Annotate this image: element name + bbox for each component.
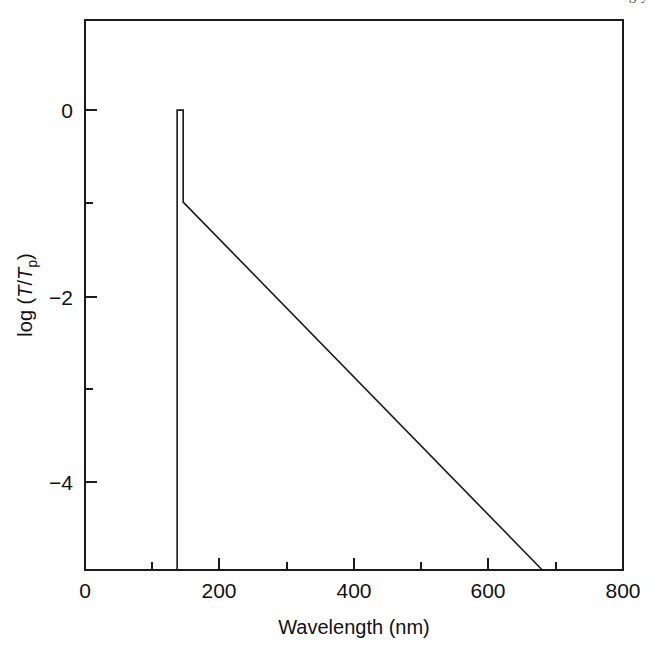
y-tick-label-minus4: −4: [49, 471, 73, 494]
x-tick-label-600: 600: [470, 579, 505, 602]
transmission-curve: [177, 110, 542, 570]
x-axis-tick-labels: 0 200 400 600 800: [79, 579, 640, 602]
x-tick-label-0: 0: [79, 579, 91, 602]
y-axis-tick-labels: 0 −2 −4: [49, 99, 73, 494]
y-axis-title: log (T/Tp): [14, 253, 40, 336]
y-axis-title-prefix: log (: [14, 297, 36, 336]
y-axis-minor-ticks: [85, 203, 93, 389]
x-tick-label-400: 400: [336, 579, 371, 602]
y-tick-label-0: 0: [61, 99, 73, 122]
x-tick-label-800: 800: [605, 579, 640, 602]
x-axis-major-ticks: [85, 558, 623, 570]
y-axis-major-ticks: [85, 110, 97, 482]
y-tick-label-minus2: −2: [49, 286, 73, 309]
y-axis-title-suffix: ): [14, 253, 36, 260]
figure-container: g y 0: [0, 0, 655, 652]
axis-frame: [85, 20, 623, 570]
caption-bleed-text: g y: [409, 0, 649, 3]
x-axis-title: Wavelength (nm): [278, 616, 430, 638]
y-axis-title-denominator-subscript: p: [24, 260, 40, 268]
chart-plot: 0 −2 −4 0 200 400 600 800 Wavelength (nm…: [0, 0, 655, 652]
x-tick-label-200: 200: [201, 579, 236, 602]
svg-text:log (T/Tp): log (T/Tp): [14, 253, 40, 336]
